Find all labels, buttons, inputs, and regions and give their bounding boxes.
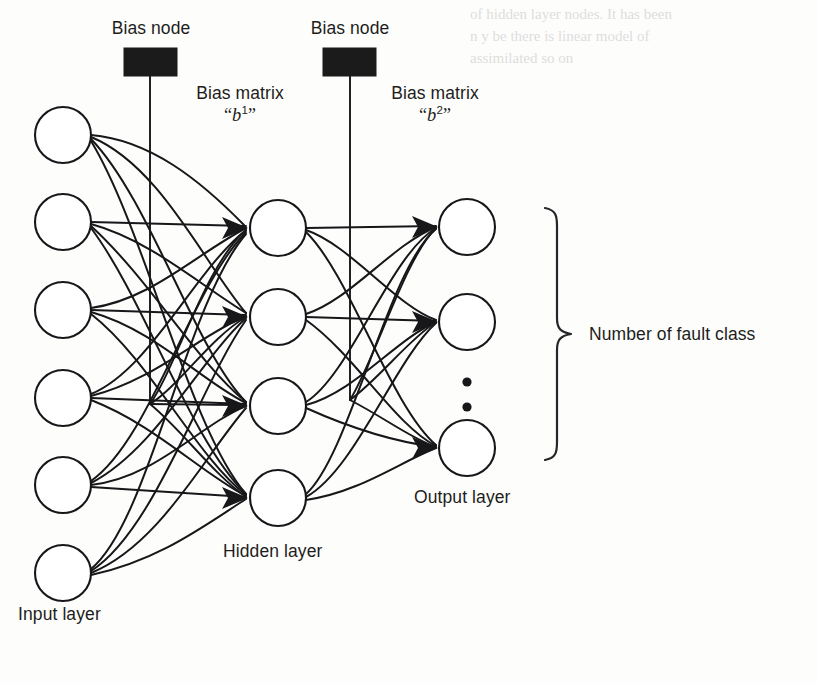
close-quote-1: ” bbox=[248, 105, 256, 125]
bias-node-2-label-text: Bias node bbox=[311, 18, 390, 38]
bias-matrix-2-label: Bias matrix “b2” bbox=[378, 83, 492, 127]
output-node bbox=[439, 420, 495, 476]
fault-class-label: Number of fault class bbox=[589, 324, 755, 345]
edges-hidden-to-output bbox=[306, 226, 436, 500]
bias-node-1-label-text: Bias node bbox=[112, 18, 191, 38]
input-node bbox=[35, 545, 91, 601]
hidden-node bbox=[250, 470, 306, 526]
hidden-node bbox=[250, 378, 306, 434]
open-quote-1: “ bbox=[224, 105, 232, 125]
output-layer-nodes bbox=[439, 199, 495, 476]
close-quote-2: ” bbox=[443, 105, 451, 125]
input-node bbox=[35, 457, 91, 513]
bias-node-1-label: Bias node bbox=[96, 18, 206, 39]
neural-network-diagram: Bias node Bias node Bias matrix “b1” Bia… bbox=[0, 0, 818, 683]
hidden-node bbox=[250, 200, 306, 256]
bias-matrix-1-label: Bias matrix “b1” bbox=[183, 83, 297, 127]
hidden-layer-nodes bbox=[250, 200, 306, 526]
fault-class-brace bbox=[545, 208, 571, 460]
input-node bbox=[35, 282, 91, 338]
hidden-layer-label-text: Hidden layer bbox=[223, 541, 322, 561]
output-layer-label: Output layer bbox=[414, 487, 511, 508]
input-node bbox=[35, 194, 91, 250]
input-layer-nodes bbox=[35, 107, 91, 601]
output-node bbox=[439, 199, 495, 255]
output-ellipsis-dot bbox=[462, 402, 471, 411]
hidden-layer-label: Hidden layer bbox=[223, 541, 322, 562]
input-layer-label: Input layer bbox=[18, 604, 101, 625]
input-layer-label-text: Input layer bbox=[18, 604, 101, 624]
output-node bbox=[439, 294, 495, 350]
bias-matrix-2-symbol: b2 bbox=[427, 105, 443, 125]
output-ellipsis-dot bbox=[462, 377, 471, 386]
open-quote-2: “ bbox=[419, 105, 427, 125]
bias-node-2-label: Bias node bbox=[295, 18, 405, 39]
bias-matrix-2-line1: Bias matrix bbox=[391, 83, 479, 103]
bias-node-1-rect bbox=[124, 48, 177, 76]
input-node bbox=[35, 370, 91, 426]
hidden-node bbox=[250, 289, 306, 345]
input-node bbox=[35, 107, 91, 163]
fault-class-label-text: Number of fault class bbox=[589, 324, 755, 344]
bias-matrix-1-line1: Bias matrix bbox=[196, 83, 284, 103]
bias-node-2-rect bbox=[323, 48, 376, 76]
output-layer-label-text: Output layer bbox=[414, 487, 511, 507]
bias-matrix-1-symbol: b1 bbox=[232, 105, 248, 125]
edges-input-to-hidden bbox=[91, 135, 246, 575]
